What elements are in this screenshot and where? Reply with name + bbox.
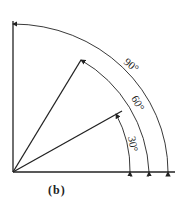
ray-30	[13, 111, 122, 172]
label-60: 60°	[129, 93, 147, 112]
arc-90	[13, 24, 168, 172]
angle-diagram: 90° 60° 30°	[0, 0, 185, 208]
label-90: 90°	[122, 55, 142, 74]
arc-60	[81, 60, 149, 172]
ray-60	[13, 60, 81, 172]
figure-caption: (b)	[48, 183, 66, 198]
